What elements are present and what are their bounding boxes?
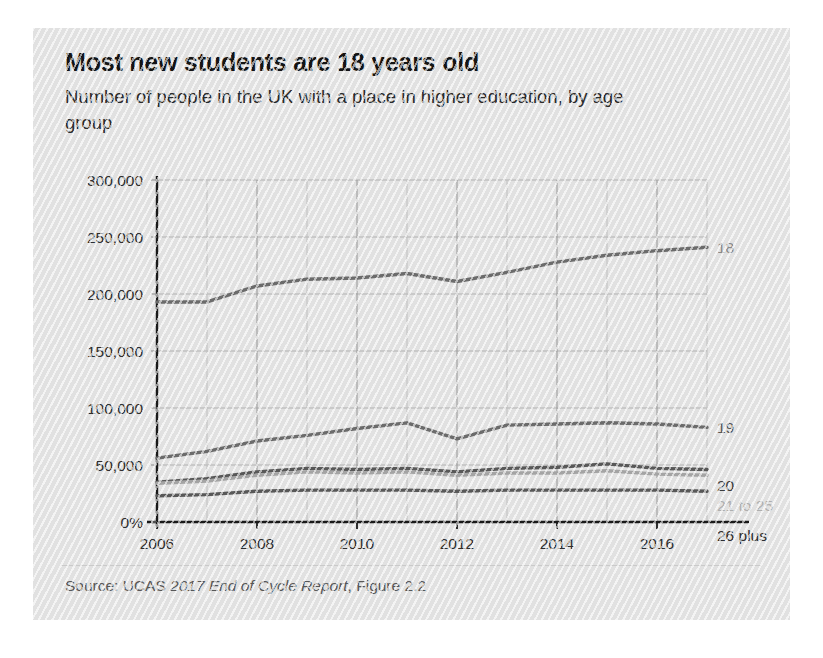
series-label-19: 19 bbox=[717, 419, 734, 436]
source-prefix: Source: UCAS bbox=[65, 577, 170, 594]
x-tick-label: 2012 bbox=[440, 535, 474, 552]
series-label-18: 18 bbox=[717, 239, 734, 256]
y-tick-label: 300,000 bbox=[87, 172, 143, 189]
y-axis-tick-labels: 0%50,000100,000150,000200,000250,000300,… bbox=[87, 172, 143, 531]
series-line-26-plus bbox=[157, 490, 707, 496]
x-axis-tick-labels: 200620082010201220142016 bbox=[140, 535, 674, 552]
source-suffix: , Figure 2.2 bbox=[348, 577, 426, 594]
y-tick-label: 150,000 bbox=[87, 343, 143, 360]
y-tick-label: 200,000 bbox=[87, 286, 143, 303]
series-lines bbox=[157, 247, 707, 496]
source-divider bbox=[61, 565, 761, 566]
x-tick-label: 2010 bbox=[340, 535, 375, 552]
series-end-labels: 18192021 to 2526 plus bbox=[717, 239, 773, 544]
source-note: Source: UCAS 2017 End of Cycle Report, F… bbox=[65, 577, 426, 595]
x-tick-label: 2006 bbox=[140, 535, 174, 552]
plot-area: 0%50,000100,000150,000200,000250,000300,… bbox=[33, 28, 790, 588]
figure-panel: Most new students are 18 years old Numbe… bbox=[33, 28, 790, 620]
series-label-20: 20 bbox=[717, 477, 735, 494]
y-tick-label: 0% bbox=[121, 514, 144, 531]
source-report-title: 2017 End of Cycle Report bbox=[170, 577, 348, 594]
y-tick-label: 50,000 bbox=[96, 457, 144, 474]
series-label-21-to-25: 21 to 25 bbox=[717, 497, 773, 514]
series-line-19 bbox=[157, 423, 707, 458]
series-label-26-plus: 26 plus bbox=[717, 527, 767, 544]
y-tick-label: 100,000 bbox=[87, 400, 143, 417]
x-tick-label: 2008 bbox=[240, 535, 274, 552]
line-chart-svg: 0%50,000100,000150,000200,000250,000300,… bbox=[33, 28, 790, 588]
x-tick-label: 2016 bbox=[640, 535, 674, 552]
y-tick-label: 250,000 bbox=[87, 229, 143, 246]
x-tick-label: 2014 bbox=[540, 535, 575, 552]
